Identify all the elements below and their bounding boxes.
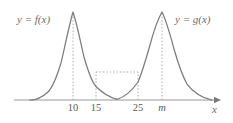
curve-f-of-x bbox=[30, 12, 117, 100]
curve-label-f: y = f(x) bbox=[17, 14, 50, 25]
x-tick-label-25: 25 bbox=[128, 103, 148, 114]
function-graph-figure: y = f(x) y = g(x) 10 15 25 m x bbox=[0, 0, 233, 123]
x-tick-label-m: m bbox=[152, 103, 172, 114]
x-tick-label-10: 10 bbox=[63, 103, 83, 114]
x-tick-label-15: 15 bbox=[86, 103, 106, 114]
curve-label-g: y = g(x) bbox=[175, 14, 211, 25]
curve-g-of-x bbox=[117, 12, 212, 100]
x-axis-label: x bbox=[212, 104, 217, 115]
